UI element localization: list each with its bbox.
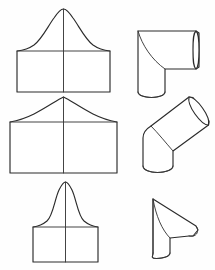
- elbow-open-end-ellipse: [193, 31, 199, 69]
- technical-drawing-figure: [0, 0, 215, 270]
- figure-canvas: [0, 0, 215, 270]
